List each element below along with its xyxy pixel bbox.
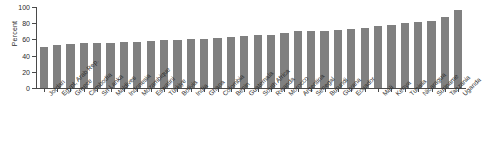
bar-column[interactable] [66, 7, 74, 88]
bar-column[interactable] [93, 7, 101, 88]
bar-column[interactable] [53, 7, 61, 88]
bar-column[interactable] [294, 7, 302, 88]
y-axis-tick-label: 100 [18, 4, 30, 11]
y-axis-tick-label: 20 [22, 68, 30, 75]
y-axis-tick-label: 0 [26, 85, 30, 92]
bar-column[interactable] [227, 7, 235, 88]
bar-column[interactable] [401, 7, 409, 88]
y-axis-tick [32, 72, 36, 73]
bar-column[interactable] [307, 7, 315, 88]
bar-column[interactable] [387, 7, 395, 88]
y-axis-tick [32, 88, 36, 89]
bar-column[interactable] [187, 7, 195, 88]
bar-column[interactable] [200, 7, 208, 88]
y-axis-tick [32, 39, 36, 40]
bar-column[interactable] [173, 7, 181, 88]
y-axis-tick [32, 56, 36, 57]
bar[interactable] [200, 39, 208, 88]
bar-column[interactable] [374, 7, 382, 88]
bar-column[interactable] [427, 7, 435, 88]
y-axis-tick-label: 40 [22, 52, 30, 59]
y-axis-tick-label: 80 [22, 20, 30, 27]
bar-column[interactable] [347, 7, 355, 88]
y-axis-tick [32, 23, 36, 24]
bar-column[interactable] [213, 7, 221, 88]
bar[interactable] [40, 47, 48, 88]
bar[interactable] [387, 25, 395, 88]
y-axis-tick-label: 60 [22, 36, 30, 43]
bar-column[interactable] [254, 7, 262, 88]
y-axis-title: Percent [11, 4, 18, 64]
bar[interactable] [401, 23, 409, 88]
y-axis-tick [32, 7, 36, 8]
bar-column[interactable] [361, 7, 369, 88]
bar-column[interactable] [334, 7, 342, 88]
x-axis-tick-labels: JordanEgypt, Arab Rep.GreeceCambodiaSri … [36, 92, 466, 151]
bar-column[interactable] [40, 7, 48, 88]
bar-column[interactable] [414, 7, 422, 88]
plot-area: 020406080100 [36, 7, 466, 88]
